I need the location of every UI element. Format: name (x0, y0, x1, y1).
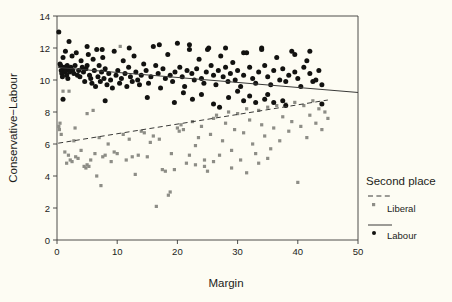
data-point-liberal (107, 142, 110, 145)
data-point-liberal (245, 107, 248, 110)
data-point-liberal (308, 114, 311, 117)
data-point-liberal (76, 157, 79, 160)
data-point-liberal (65, 162, 68, 165)
legend-liberal-label: Liberal (387, 203, 416, 214)
data-point-liberal (311, 99, 314, 102)
data-point-labour (65, 76, 70, 81)
data-point-liberal (134, 173, 137, 176)
data-point-labour (146, 81, 151, 86)
data-point-liberal (182, 128, 185, 131)
data-point-liberal (176, 126, 179, 129)
legend-title: Second place (366, 175, 436, 187)
data-point-liberal (58, 128, 61, 131)
data-point-liberal (314, 122, 317, 125)
data-point-labour (132, 54, 137, 59)
data-point-labour (172, 100, 177, 105)
data-point-liberal (320, 128, 323, 131)
data-point-liberal (185, 162, 188, 165)
data-point-liberal (170, 152, 173, 155)
data-point-liberal (305, 136, 308, 139)
data-point-labour (114, 73, 119, 78)
legend-labour-marker (372, 231, 376, 235)
data-point-liberal (73, 126, 76, 129)
data-point-labour (103, 66, 108, 71)
data-point-labour (175, 41, 180, 46)
data-point-liberal (242, 131, 245, 134)
data-point-labour (85, 44, 90, 49)
data-point-labour (128, 74, 133, 79)
data-point-labour (235, 68, 240, 73)
y-tick-label: 14 (39, 11, 50, 22)
data-point-labour (181, 90, 186, 95)
data-point-labour (165, 52, 170, 57)
data-point-labour (124, 84, 129, 89)
data-point-liberal (260, 123, 263, 126)
data-point-liberal (178, 130, 181, 133)
data-point-labour (307, 71, 312, 76)
data-point-labour (228, 71, 233, 76)
data-point-labour (145, 95, 150, 100)
data-point-labour (104, 82, 109, 87)
data-point-labour (137, 82, 142, 87)
data-point-labour (121, 58, 126, 63)
data-point-labour (141, 62, 146, 67)
data-point-labour (316, 68, 321, 73)
x-axis-title: Margin (208, 277, 243, 289)
data-point-liberal (275, 104, 278, 107)
data-point-labour (265, 74, 270, 79)
data-point-labour (135, 78, 140, 83)
data-point-labour (265, 92, 270, 97)
data-point-liberal (194, 163, 197, 166)
data-point-liberal (266, 106, 269, 109)
data-point-labour (253, 100, 258, 105)
data-point-labour (211, 73, 216, 78)
data-point-liberal (161, 168, 164, 171)
data-point-labour (199, 76, 204, 81)
data-point-liberal (245, 171, 248, 174)
data-point-labour (241, 98, 246, 103)
data-point-liberal (70, 160, 73, 163)
data-point-labour (221, 74, 226, 79)
data-point-labour (112, 49, 117, 54)
data-point-labour (70, 54, 75, 59)
data-point-liberal (67, 154, 70, 157)
data-point-liberal (84, 166, 87, 169)
data-point-liberal (67, 90, 70, 93)
data-point-liberal (57, 125, 60, 128)
data-point-labour (56, 30, 61, 35)
y-tick-label: 2 (45, 203, 50, 214)
data-point-liberal (266, 157, 269, 160)
data-point-labour (151, 44, 156, 49)
data-point-labour (223, 46, 228, 51)
data-point-liberal (203, 158, 206, 161)
data-point-liberal (323, 110, 326, 113)
data-point-liberal (227, 110, 230, 113)
data-point-labour (85, 63, 90, 68)
chart-canvas: 01020304050 02468101214 Margin Conservat… (0, 0, 452, 302)
data-point-labour (79, 58, 84, 63)
data-point-labour (295, 76, 300, 81)
data-point-labour (91, 57, 96, 62)
data-point-labour (127, 46, 132, 51)
data-point-liberal (206, 170, 209, 173)
data-point-labour (199, 92, 204, 97)
data-point-liberal (93, 152, 96, 155)
data-point-liberal (58, 122, 61, 125)
data-point-liberal (113, 150, 116, 153)
y-tick-label: 4 (45, 171, 50, 182)
data-point-labour (313, 78, 318, 83)
data-point-labour (301, 65, 306, 70)
data-point-labour (250, 76, 255, 81)
data-point-labour (304, 58, 309, 63)
data-point-labour (218, 54, 223, 59)
scatter-plot-figure: 01020304050 02468101214 Margin Conservat… (0, 0, 452, 302)
data-point-labour (67, 39, 72, 44)
data-point-labour (211, 102, 216, 107)
data-point-liberal (104, 154, 107, 157)
data-point-liberal (164, 170, 167, 173)
data-point-labour (93, 84, 98, 89)
data-point-labour (95, 74, 100, 79)
data-point-labour (247, 94, 252, 99)
data-point-liberal (326, 117, 329, 120)
data-point-liberal (95, 174, 98, 177)
